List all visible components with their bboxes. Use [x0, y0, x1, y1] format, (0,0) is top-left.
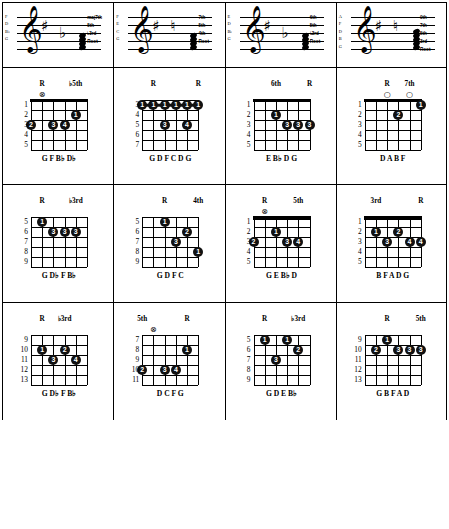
staff-notation-cell: 𝄞♯♮FECG7th5th4thRoot: [114, 2, 224, 68]
finger-dot: 1: [371, 227, 381, 237]
fret-wire-line: [31, 375, 87, 376]
fret-string-line: [310, 335, 311, 385]
staff-pitch-name: E: [228, 13, 239, 20]
fret-wire-line: [31, 365, 87, 366]
chord-chart-columns: 𝄞♯♭FDB♭Gmaj7th5th♭3rdRoot⊗R♭5th234112345…: [2, 2, 447, 420]
fret-number: 4: [238, 247, 251, 257]
fret-number: 8: [238, 365, 251, 375]
fret-wire-line: [142, 217, 198, 218]
finger-dot: 1: [182, 100, 192, 110]
fret-number: 4: [349, 130, 362, 140]
fret-string-line: [276, 100, 277, 150]
fret-string-line: [376, 217, 377, 267]
fret-string-line: [387, 100, 388, 150]
staff-pitch-names: FDB♭G: [5, 13, 16, 43]
staff-interval-labels: 9th7th5th3rdRoot: [420, 14, 444, 54]
diagram-top-label: R: [418, 197, 423, 205]
fret-string-line: [53, 217, 54, 267]
staff-interval-label: 7th: [420, 22, 444, 30]
fret-wire-line: [365, 257, 421, 258]
finger-dot: 1: [148, 100, 158, 110]
finger-dot: 3: [282, 120, 292, 130]
finger-dot: 1: [182, 345, 192, 355]
fret-wire-line: [254, 267, 310, 268]
fret-wire-line: [31, 257, 87, 258]
chord-diagram: RR1111113434567G D F C D G: [142, 90, 198, 152]
fret-number: 3: [349, 237, 362, 247]
fret-number: 9: [15, 335, 28, 345]
staff-interval-labels: 6th5th♭3rdRoot: [310, 14, 334, 46]
chord-diagram: ⊗R♭5th234112345G F B♭ D♭: [31, 90, 87, 152]
diagram-top-label: 7th: [405, 80, 415, 88]
fret-number-gutter: 12345: [349, 217, 362, 267]
staff-interval-labels: maj7th5th♭3rdRoot: [87, 14, 111, 46]
finger-dot: 1: [71, 110, 81, 120]
staff-interval-label: Root: [310, 38, 334, 46]
fret-wire-line: [254, 375, 310, 376]
fret-string-line: [87, 335, 88, 385]
fret-wire-line: [142, 130, 198, 131]
accidental-natural-icon: ♮: [170, 19, 175, 34]
finger-dot: 3: [305, 120, 315, 130]
nut-bar: [364, 216, 422, 219]
finger-dot: 3: [416, 345, 426, 355]
finger-dot: 1: [271, 110, 281, 120]
fret-number: 2: [349, 110, 362, 120]
fret-string-line: [410, 100, 411, 150]
finger-dot: 3: [282, 237, 292, 247]
nut-bar: [253, 216, 311, 219]
fret-number: 1: [238, 100, 251, 110]
fret-wire-line: [31, 385, 87, 386]
fret-wire-line: [142, 150, 198, 151]
staff-interval-label: 5th: [310, 22, 334, 30]
finger-dot: 2: [393, 227, 403, 237]
string-marker-open: ○: [406, 91, 413, 99]
finger-dot: 1: [271, 227, 281, 237]
string-marker-circle-x: ⊗: [261, 208, 268, 216]
fret-number: 4: [349, 247, 362, 257]
fret-wire-line: [31, 140, 87, 141]
fret-number: 5: [238, 140, 251, 150]
fretboard-grid: [365, 335, 421, 385]
fret-wire-line: [142, 247, 198, 248]
finger-dot: 3: [160, 120, 170, 130]
fret-string-line: [76, 100, 77, 150]
nut-bar: [253, 99, 311, 102]
fret-number: 3: [238, 237, 251, 247]
treble-clef-icon: 𝄞: [242, 8, 266, 48]
staff-pitch-name: E: [116, 20, 127, 27]
treble-clef-icon: 𝄞: [130, 8, 154, 48]
chord-diagram-cell: R♭3rd1234910111213G D♭ F B♭: [3, 303, 113, 420]
fret-wire-line: [254, 257, 310, 258]
chord-note-names: G D F C D G: [132, 154, 208, 164]
fret-string-line: [376, 100, 377, 150]
fret-number: 10: [15, 345, 28, 355]
chord-diagram-cell: ⊗R5th213412345G E B♭ D: [226, 185, 336, 302]
finger-dot: 3: [48, 120, 58, 130]
fret-string-line: [198, 217, 199, 267]
fret-number: 6: [126, 130, 139, 140]
chord-note-names: B F A D G: [355, 271, 431, 281]
fret-number: 5: [238, 335, 251, 345]
finger-dot: 1: [382, 335, 392, 345]
chord-note-names: D C F G: [132, 389, 208, 399]
chord-diagram-cell: ⊗R♭5th234112345G F B♭ D♭: [3, 68, 113, 185]
chart-column-1: 𝄞♯♭FDB♭Gmaj7th5th♭3rdRoot⊗R♭5th234112345…: [2, 2, 113, 420]
fret-wire-line: [365, 267, 421, 268]
diagram-top-label: R: [40, 197, 45, 205]
fret-number: 7: [15, 237, 28, 247]
fret-number: 8: [126, 247, 139, 257]
staff-interval-label: Root: [420, 46, 444, 54]
fret-string-line: [376, 335, 377, 385]
finger-dot: 1: [37, 217, 47, 227]
staff-pitch-name: D: [339, 28, 350, 35]
chord-note-names: D A B F: [355, 154, 431, 164]
fret-wire-line: [365, 247, 421, 248]
nut-bar: [30, 99, 88, 102]
fret-wire-line: [365, 110, 421, 111]
diagram-top-label: R: [385, 80, 390, 88]
finger-dot: 3: [48, 355, 58, 365]
staff-pitch-name: G: [5, 35, 16, 42]
fret-number: 12: [15, 365, 28, 375]
accidental-sharp-icon: ♯: [375, 19, 382, 34]
